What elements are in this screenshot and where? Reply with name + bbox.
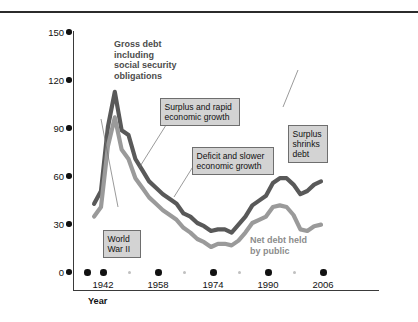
y-tick-label-150: 150 [36,27,64,38]
x-tick-label-1974: 1974 [193,279,233,290]
y-tick-label-90: 90 [36,123,64,134]
y-tick-dot-90 [66,125,72,131]
y-tick-label-30: 30 [36,219,64,230]
x-tick-dot-2006 [320,269,327,276]
x-tick-dot-1974 [210,269,217,276]
y-tick-dot-30 [66,221,72,227]
y-axis-label: Federal government debt (percentage of G… [0,0,4,73]
y-tick-label-60: 60 [36,171,64,182]
chart-figure: Federal government debt (percentage of G… [0,13,418,322]
y-tick-dot-0 [66,269,72,275]
x-tick-label-1958: 1958 [138,279,178,290]
x-tick-dot-1942 [100,269,107,276]
y-tick-dot-150 [66,29,72,35]
leader-surplus-shrinks-debt [283,70,298,107]
annotation-net-debt: Net debt held by public [250,235,328,256]
y-tick-label-0: 0 [36,267,64,278]
callout-world-war-ii: World War II [103,230,141,258]
x-tick-dot-1958 [155,269,162,276]
y-tick-dot-120 [66,77,72,83]
x-tick-label-1942: 1942 [83,279,123,290]
callout-surplus-shrinks-debt: Surplus shrinks debt [288,125,328,163]
page-header-strip [0,0,418,11]
callout-deficit-slower-growth: Deficit and slower economic growth [192,147,274,175]
annotation-gross-debt: Gross debt including social security obl… [114,39,202,81]
x-axis-label: Year [88,296,107,306]
x-tick-dot-origin [84,269,91,276]
y-tick-label-120: 120 [36,75,64,86]
callout-surplus-rapid-growth: Surplus and rapid economic growth [160,98,240,126]
x-tick-dot-1990 [265,269,272,276]
x-tick-label-2006: 2006 [303,279,343,290]
y-tick-dot-60 [66,173,72,179]
x-tick-label-1990: 1990 [248,279,288,290]
